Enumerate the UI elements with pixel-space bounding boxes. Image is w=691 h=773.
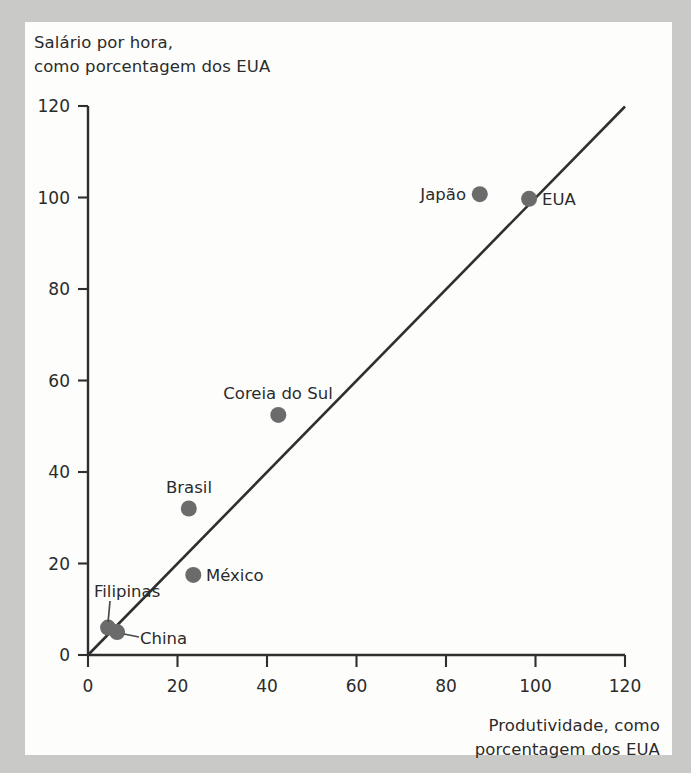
x-tick-marks xyxy=(88,655,625,667)
data-point-japao[interactable] xyxy=(472,186,488,202)
y-tick-label: 20 xyxy=(48,554,70,574)
scatter-plot: 0 20 40 60 80 100 120 0 20 40 60 80 100 … xyxy=(0,0,691,773)
x-tick-label: 60 xyxy=(346,676,368,696)
data-point-coreia-do-sul[interactable] xyxy=(270,407,286,423)
point-label-coreia-do-sul: Coreia do Sul xyxy=(223,384,332,403)
leader-line-china xyxy=(124,634,139,637)
leader-line-filipinas xyxy=(108,601,110,622)
data-point-china[interactable] xyxy=(109,624,125,640)
data-point-mexico[interactable] xyxy=(185,567,201,583)
y-tick-label: 40 xyxy=(48,462,70,482)
data-point-brasil[interactable] xyxy=(181,501,197,517)
x-axis-title: Produtividade, como porcentagem dos EUA xyxy=(360,714,660,762)
x-tick-label: 0 xyxy=(83,676,94,696)
point-label-brasil: Brasil xyxy=(166,478,212,497)
x-tick-label: 40 xyxy=(256,676,278,696)
y-tick-label: 0 xyxy=(59,645,70,665)
reference-line-45deg xyxy=(88,107,625,656)
x-tick-label: 20 xyxy=(167,676,189,696)
x-tick-labels: 0 20 40 60 80 100 120 xyxy=(83,676,642,696)
point-label-japao: Japão xyxy=(419,185,466,204)
data-point-eua[interactable] xyxy=(521,191,537,207)
x-tick-label: 120 xyxy=(609,676,641,696)
figure-page: Salário por hora, como porcentagem dos E… xyxy=(0,0,691,773)
y-tick-marks xyxy=(78,106,88,655)
y-tick-labels: 0 20 40 60 80 100 120 xyxy=(38,96,70,665)
point-label-eua: EUA xyxy=(542,190,577,209)
point-label-filipinas: Filipinas xyxy=(94,582,160,601)
point-label-china: China xyxy=(140,629,187,648)
y-tick-label: 60 xyxy=(48,371,70,391)
x-tick-label: 80 xyxy=(435,676,457,696)
point-label-mexico: México xyxy=(206,566,264,585)
x-tick-label: 100 xyxy=(519,676,551,696)
y-tick-label: 100 xyxy=(38,188,70,208)
y-tick-label: 120 xyxy=(38,96,70,116)
y-tick-label: 80 xyxy=(48,279,70,299)
